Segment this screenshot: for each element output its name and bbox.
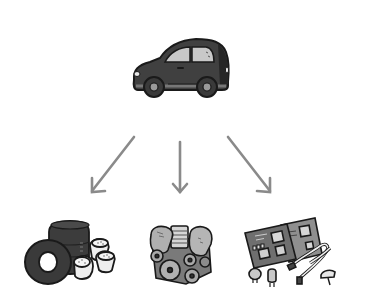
car-icon [134,39,229,97]
arrows [92,137,270,192]
circuit-boards-icon [245,218,335,287]
arrow-down-icon [173,142,187,192]
car-breakdown-diagram [0,0,365,307]
arrow-left-icon [92,137,134,192]
arrow-right-icon [228,137,270,192]
engine-icon [150,226,211,284]
tires-icon [25,221,115,284]
